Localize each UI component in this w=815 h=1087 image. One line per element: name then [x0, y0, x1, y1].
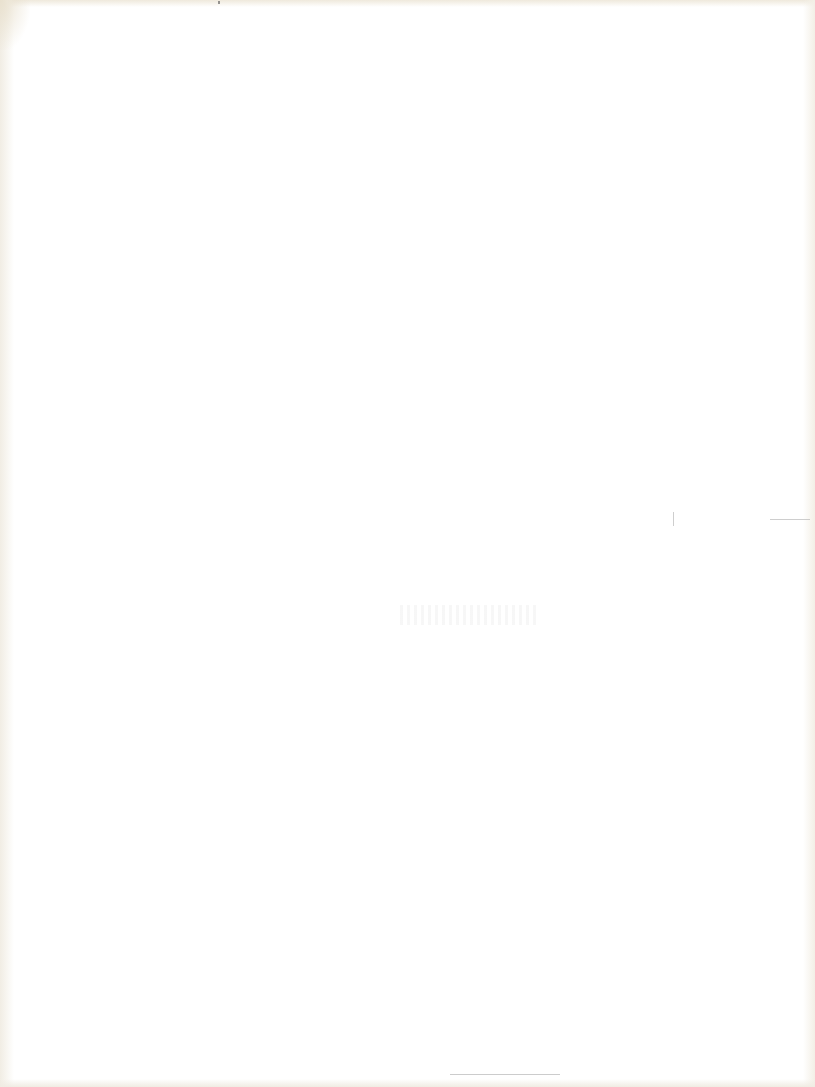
paper-edge-right: [803, 0, 815, 1087]
stray-mark: [450, 1074, 560, 1075]
paper-corner-shadow: [0, 0, 30, 50]
stray-mark: [218, 1, 220, 4]
stray-mark: [673, 512, 674, 526]
stray-mark: [770, 519, 810, 520]
paper-edge-bottom: [0, 1079, 815, 1087]
blank-scanned-page: [0, 0, 815, 1087]
faint-bleed-through: [400, 605, 540, 625]
paper-edge-top: [0, 0, 815, 7]
paper-edge-left: [0, 0, 14, 1087]
